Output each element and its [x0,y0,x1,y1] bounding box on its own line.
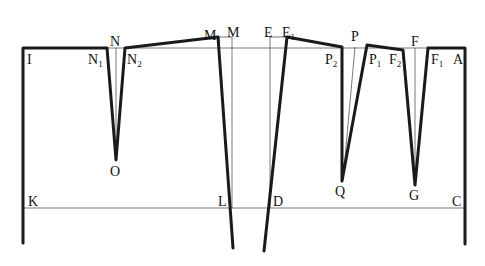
label-I: I [27,52,32,67]
label-G: G [409,188,419,203]
label-F2: F2 [389,52,401,69]
label-E: E [264,25,273,40]
label-N1: N1 [88,52,103,69]
point-labels: I N1 N N2 O M1 M E E1 P P2 P1 F2 F F1 A … [27,25,464,209]
label-N: N [110,34,120,49]
label-P: P [351,29,359,44]
label-F: F [411,34,419,49]
pattern-diagram: I N1 N N2 O M1 M E E1 P P2 P1 F2 F F1 A … [0,0,485,266]
label-M: M [227,25,240,40]
label-D: D [273,194,283,209]
label-E1: E1 [282,25,295,42]
label-K: K [28,194,38,209]
label-Q: Q [335,184,345,199]
diagram-canvas: I N1 N N2 O M1 M E E1 P P2 P1 F2 F F1 A … [0,0,485,266]
label-A: A [453,52,464,67]
label-N2: N2 [127,52,142,69]
label-P1: P1 [369,52,381,69]
label-P2: P2 [325,52,337,69]
label-O: O [110,164,120,179]
label-C: C [452,194,461,209]
pattern-outline [23,37,465,251]
label-F1: F1 [431,52,443,69]
label-M1: M1 [204,28,221,45]
label-L: L [218,194,227,209]
